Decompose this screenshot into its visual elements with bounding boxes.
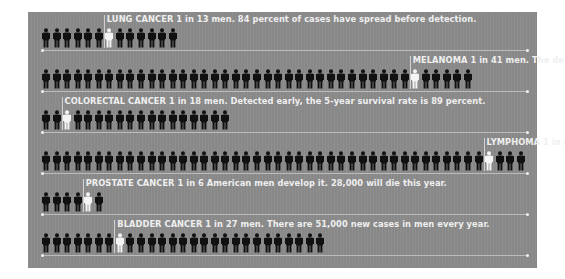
man-icon: [158, 69, 166, 89]
man-icon: [295, 233, 303, 253]
man-icon: [148, 151, 156, 171]
man-icon: [422, 151, 430, 171]
separator-dot-right: [526, 172, 529, 175]
man-icon: [380, 151, 388, 171]
man-icon: [148, 233, 156, 253]
man-icon: [295, 69, 303, 89]
man-icon: [84, 69, 92, 89]
man-icon: [232, 151, 240, 171]
man-icon: [306, 69, 314, 89]
man-icon: [274, 69, 282, 89]
man-icon: [74, 233, 82, 253]
man-icon: [242, 151, 250, 171]
man-icon: [390, 151, 398, 171]
row-separator: [42, 132, 527, 133]
man-icon: [390, 69, 398, 89]
row-lymphoma: LYMPHOMA 1 in 46 men. 21 percent of non-…: [28, 135, 537, 175]
row-label: LUNG CANCER 1 in 13 men. 84 percent of c…: [107, 14, 477, 24]
man-icon: [200, 110, 208, 130]
man-icon: [84, 110, 92, 130]
man-icon: [432, 69, 440, 89]
man-icon: [517, 151, 525, 171]
man-icon: [42, 110, 50, 130]
man-icon: [179, 233, 187, 253]
separator-dot-left: [41, 49, 44, 52]
row-label: COLORECTAL CANCER 1 in 18 men. Detected …: [65, 96, 486, 106]
highlighted-man-icon: [116, 233, 124, 253]
man-icon: [221, 110, 229, 130]
man-icon: [443, 151, 451, 171]
man-icon: [242, 69, 250, 89]
man-icon: [211, 110, 219, 130]
man-icon: [158, 28, 166, 48]
man-icon: [496, 151, 504, 171]
man-icon: [211, 69, 219, 89]
man-icon: [169, 151, 177, 171]
row-separator: [42, 173, 527, 174]
man-icon: [116, 28, 124, 48]
highlighted-man-icon: [411, 69, 419, 89]
highlighted-man-icon: [84, 192, 92, 212]
row-label: LYMPHOMA 1 in 46 men. 21 percent of non-…: [487, 137, 565, 147]
man-icon: [148, 28, 156, 48]
row-label: PROSTATE CANCER 1 in 6 American men deve…: [86, 178, 447, 188]
man-icon: [137, 69, 145, 89]
man-icon: [53, 110, 61, 130]
man-icon: [411, 151, 419, 171]
man-icon: [380, 69, 388, 89]
man-icon: [105, 151, 113, 171]
man-icon: [169, 110, 177, 130]
man-icon: [63, 192, 71, 212]
man-icon: [242, 233, 250, 253]
man-icon: [95, 110, 103, 130]
man-icon: [422, 69, 430, 89]
man-icon: [105, 69, 113, 89]
highlight-marker-line: [62, 97, 63, 130]
man-icon: [327, 69, 335, 89]
man-icon: [169, 28, 177, 48]
man-icon: [63, 69, 71, 89]
man-icon: [126, 69, 134, 89]
man-icon: [158, 151, 166, 171]
man-icon: [285, 233, 293, 253]
man-icon: [148, 110, 156, 130]
man-icon: [190, 110, 198, 130]
man-icon: [53, 233, 61, 253]
man-icon: [401, 151, 409, 171]
man-icon: [264, 233, 272, 253]
man-icon: [306, 233, 314, 253]
man-icon: [74, 192, 82, 212]
man-icon: [337, 151, 345, 171]
man-icon: [42, 192, 50, 212]
man-icon: [316, 233, 324, 253]
figure-row: [42, 28, 179, 48]
man-icon: [53, 28, 61, 48]
highlight-marker-line: [410, 56, 411, 89]
row-colorectal-cancer: COLORECTAL CANCER 1 in 18 men. Detected …: [28, 94, 537, 134]
man-icon: [464, 69, 472, 89]
man-icon: [84, 151, 92, 171]
man-icon: [190, 69, 198, 89]
man-icon: [53, 192, 61, 212]
man-icon: [63, 28, 71, 48]
man-icon: [285, 151, 293, 171]
man-icon: [506, 151, 514, 171]
man-icon: [42, 151, 50, 171]
man-icon: [453, 151, 461, 171]
man-icon: [348, 69, 356, 89]
man-icon: [232, 69, 240, 89]
man-icon: [306, 151, 314, 171]
man-icon: [95, 151, 103, 171]
man-icon: [42, 28, 50, 48]
separator-dot-left: [41, 213, 44, 216]
highlight-marker-line: [114, 220, 115, 253]
man-icon: [169, 69, 177, 89]
figure-row: [42, 110, 232, 130]
separator-dot-left: [41, 172, 44, 175]
man-icon: [126, 233, 134, 253]
man-icon: [211, 151, 219, 171]
man-icon: [95, 233, 103, 253]
man-icon: [179, 69, 187, 89]
man-icon: [348, 151, 356, 171]
man-icon: [95, 69, 103, 89]
